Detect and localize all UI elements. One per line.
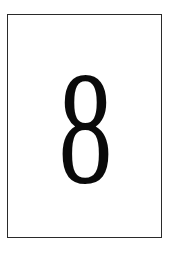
digit-eight: 8 (58, 46, 112, 208)
digit-container: 8 (0, 0, 171, 255)
